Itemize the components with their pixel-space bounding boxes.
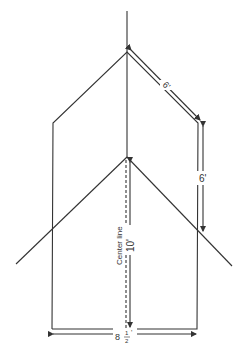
- inner-left-diagonal: [16, 157, 127, 264]
- base-prime: ': [131, 329, 132, 336]
- right-side-label: 6': [199, 173, 207, 184]
- layout-diagram: 6' 6' 10' Center line 8 1 2 ': [0, 0, 250, 364]
- base-whole-label: 8: [115, 332, 120, 342]
- outer-outline: [52, 52, 198, 329]
- center-height-label: 10': [125, 239, 136, 252]
- center-line-label: Center line: [115, 226, 124, 265]
- inner-right-diagonal: [127, 157, 232, 266]
